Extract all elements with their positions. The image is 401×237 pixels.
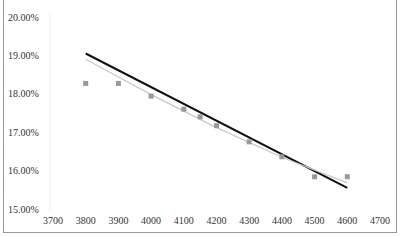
data-point-marker (181, 107, 186, 112)
scatter-chart: 15.00%16.00%17.00%18.00%19.00%20.00%3700… (0, 0, 401, 237)
data-point-marker (247, 139, 252, 144)
data-point-marker (116, 81, 121, 86)
x-tick-label: 4600 (337, 215, 357, 226)
x-tick-label: 4000 (141, 215, 161, 226)
data-point-marker (312, 174, 317, 179)
y-tick-label: 18.00% (8, 88, 39, 99)
y-tick-label: 19.00% (8, 50, 39, 61)
x-tick-label: 4100 (174, 215, 194, 226)
x-tick-label: 4700 (370, 215, 390, 226)
x-tick-label: 4300 (239, 215, 259, 226)
data-point-marker (279, 154, 284, 159)
x-tick-label: 3700 (43, 215, 63, 226)
data-point-marker (214, 123, 219, 128)
x-tick-label: 3800 (76, 215, 96, 226)
data-point-marker (83, 81, 88, 86)
y-tick-label: 16.00% (8, 165, 39, 176)
data-point-marker (149, 94, 154, 99)
data-point-marker (198, 114, 203, 119)
y-tick-label: 15.00% (8, 204, 39, 215)
y-tick-label: 20.00% (8, 12, 39, 23)
x-tick-label: 4500 (305, 215, 325, 226)
x-tick-label: 3900 (108, 215, 128, 226)
x-tick-label: 4400 (272, 215, 292, 226)
data-point-marker (345, 174, 350, 179)
y-tick-label: 17.00% (8, 127, 39, 138)
x-tick-label: 4200 (207, 215, 227, 226)
